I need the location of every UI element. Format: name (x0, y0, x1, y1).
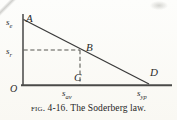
caption-text: The Soderberg law. (70, 103, 146, 113)
y-tick-sr-subscript: r (10, 51, 13, 58)
caption-fig-prefix: Fig. (31, 103, 45, 113)
x-tick-label-syp: syp (137, 89, 147, 100)
figure-container: A B C D O se sr sav syp Fig. 4-16. The S… (0, 0, 177, 120)
x-tick-label-sav: sav (62, 89, 72, 100)
figure-caption: Fig. 4-16. The Soderberg law. (0, 103, 177, 113)
x-tick-sav-subscript: av (66, 93, 72, 100)
y-tick-label-se: se (6, 18, 12, 29)
y-tick-label-sr: sr (6, 47, 12, 58)
point-label-d: D (150, 67, 158, 78)
point-label-a: A (26, 13, 33, 24)
origin-label: O (10, 84, 17, 94)
y-tick-se-subscript: e (10, 22, 13, 29)
point-label-c: C (74, 72, 81, 83)
point-label-b: B (86, 42, 93, 53)
x-tick-syp-subscript: yp (141, 93, 147, 100)
caption-number: 4-16. (48, 103, 68, 113)
